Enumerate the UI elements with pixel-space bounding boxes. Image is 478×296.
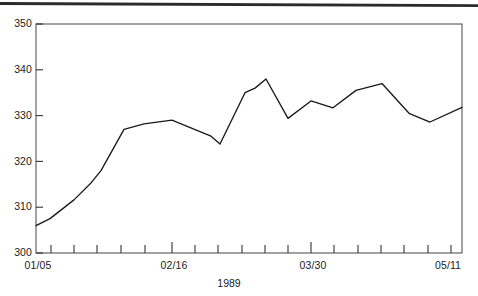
data-series-line	[36, 79, 462, 226]
xtick-label-end: 05/11	[420, 259, 476, 271]
plot-area	[0, 0, 478, 296]
ytick-label-300: 300	[2, 246, 32, 258]
xtick-label-start: 01/05	[10, 259, 66, 271]
y-tick-marks	[36, 24, 43, 253]
x-axis-title: 1989	[199, 277, 259, 289]
xtick-label-mid2: 03/30	[285, 259, 341, 271]
plot-frame	[36, 24, 462, 253]
ytick-label-310: 310	[2, 200, 32, 212]
ytick-label-320: 320	[2, 155, 32, 167]
xtick-label-mid1: 02/16	[146, 259, 202, 271]
ytick-label-330: 330	[2, 109, 32, 121]
ytick-label-350: 350	[2, 17, 32, 29]
ytick-label-340: 340	[2, 63, 32, 75]
x-tick-marks	[51, 242, 451, 253]
chart-figure: 350 340 330 320 310 300 01/05 02/16 03/3…	[0, 0, 478, 296]
